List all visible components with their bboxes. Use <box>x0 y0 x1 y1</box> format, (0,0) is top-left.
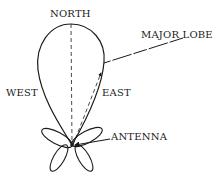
antenna-pattern-diagram: NORTH MAJOR LOBE WEST EAST ANTENNA <box>0 0 224 174</box>
north-label: NORTH <box>50 9 91 19</box>
minor-lobe-lower-right <box>72 142 97 173</box>
minor-lobe-upper-left <box>39 125 75 152</box>
minor-lobe-lower-left <box>47 142 72 173</box>
major-lobe-shape <box>38 24 105 145</box>
antenna-point-icon <box>70 143 74 147</box>
east-vector-arrow <box>73 73 101 145</box>
east-label: EAST <box>102 88 131 98</box>
major-lobe-leader-line <box>104 38 183 63</box>
antenna-leader-line <box>75 139 110 145</box>
antenna-label: ANTENNA <box>111 132 167 142</box>
north-axis-line <box>71 24 72 145</box>
major-lobe-label: MAJOR LOBE <box>141 30 213 40</box>
minor-lobe-upper-right <box>69 124 105 151</box>
west-label: WEST <box>6 88 38 98</box>
